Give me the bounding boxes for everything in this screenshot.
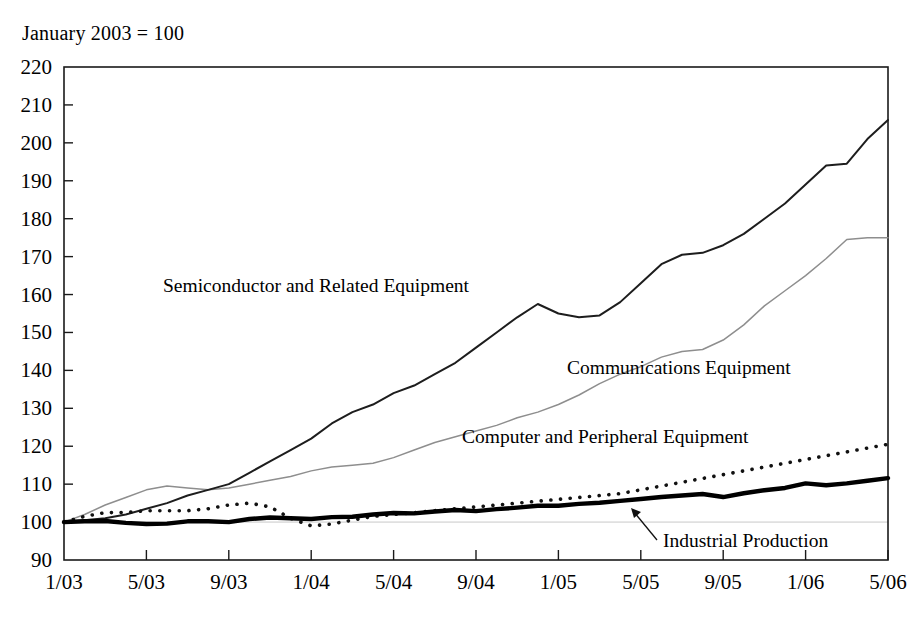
series-layer — [64, 120, 888, 526]
y-axis-tick-label: 130 — [21, 396, 53, 420]
series-line-industrial-production — [64, 478, 888, 524]
y-axis-tick-group — [64, 105, 73, 522]
y-axis-tick-label: 180 — [21, 207, 53, 231]
series-line-computer — [64, 444, 888, 526]
series-label-computer: Computer and Peripheral Equipment — [462, 426, 749, 447]
x-axis-tick-label: 5/05 — [622, 570, 659, 594]
x-axis-label-group: 1/035/039/031/045/049/041/055/059/051/06… — [45, 570, 906, 594]
y-axis-tick-label: 210 — [21, 93, 53, 117]
y-axis-tick-label: 140 — [21, 358, 53, 382]
x-axis-tick-group — [146, 550, 888, 560]
y-axis-tick-label: 190 — [21, 169, 53, 193]
y-axis-tick-label: 150 — [21, 320, 53, 344]
chart-figure: January 2003 = 100 901001101201301401501… — [0, 0, 914, 617]
x-axis-tick-label: 5/04 — [375, 570, 413, 594]
series-label-communications: Communications Equipment — [567, 357, 791, 378]
series-label-semiconductor: Semiconductor and Related Equipment — [163, 275, 470, 296]
plot-frame — [64, 67, 888, 560]
series-line-semiconductor — [64, 120, 888, 522]
x-axis-tick-label: 9/05 — [705, 570, 742, 594]
series-label-industrial-production: Industrial Production — [663, 530, 828, 551]
y-axis-tick-label: 100 — [21, 510, 53, 534]
y-axis-tick-label: 170 — [21, 245, 53, 269]
industrial-production-callout-arrow — [631, 508, 657, 540]
y-axis-tick-label: 220 — [21, 55, 53, 79]
x-axis-tick-label: 5/06 — [869, 570, 906, 594]
x-axis-tick-label: 1/04 — [293, 570, 331, 594]
y-axis-tick-label: 120 — [21, 434, 53, 458]
line-chart-svg: 9010011012013014015016017018019020021022… — [0, 0, 914, 617]
x-axis-tick-label: 5/03 — [128, 570, 165, 594]
y-axis-tick-label: 160 — [21, 283, 53, 307]
x-axis-tick-label: 9/04 — [457, 570, 495, 594]
x-axis-tick-label: 1/03 — [45, 570, 82, 594]
x-axis-tick-label: 1/05 — [540, 570, 577, 594]
x-axis-tick-label: 1/06 — [787, 570, 824, 594]
x-axis-tick-label: 9/03 — [210, 570, 247, 594]
y-axis-tick-label: 200 — [21, 131, 53, 155]
y-axis-tick-label: 110 — [21, 472, 52, 496]
y-axis-tick-label: 90 — [31, 548, 52, 572]
y-axis-label-group: 9010011012013014015016017018019020021022… — [21, 55, 53, 572]
